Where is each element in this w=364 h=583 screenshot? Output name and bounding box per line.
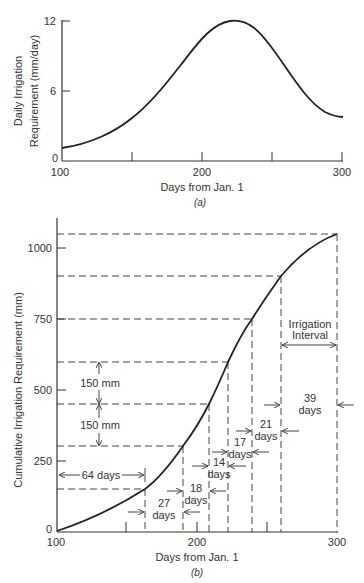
y-tick: 6 [50, 85, 56, 97]
y-tick: 750 [34, 313, 52, 325]
panel-caption: (b) [191, 567, 203, 578]
y-tick: 1000 [28, 242, 52, 254]
x-tick: 300 [333, 166, 351, 178]
panel-a: 12 6 0 100 200 300 Days from Jan. 1 (a) … [12, 15, 351, 208]
interval-label: 27 [158, 497, 170, 509]
depth-label: 150 mm [80, 419, 120, 431]
interval-label: days [298, 404, 322, 416]
y-tick: 0 [52, 152, 58, 164]
interval-label: days [228, 448, 252, 460]
x-axis-label: Days from Jan. 1 [160, 181, 243, 193]
y-tick: 500 [34, 384, 52, 396]
x-tick: 300 [328, 536, 346, 548]
figure: 12 6 0 100 200 300 Days from Jan. 1 (a) … [0, 0, 364, 583]
x-tick: 100 [47, 536, 65, 548]
interval-label: 64 days [82, 469, 121, 481]
y-axis-label: Daily Irrigation [12, 56, 24, 126]
interval-label: 18 [190, 482, 202, 494]
depth-label: 150 mm [80, 377, 120, 389]
daily-curve [62, 21, 343, 148]
x-tick: 200 [188, 536, 206, 548]
interval-label: 21 [260, 418, 272, 430]
x-axis-label: Days from Jan. 1 [155, 551, 238, 563]
y-axis-label: Cumulative Irrigation Requirement (mm) [12, 292, 24, 488]
x-tick: 100 [51, 166, 69, 178]
y-axis-label: Requirement (mm/day) [28, 35, 40, 147]
interval-label: days [184, 494, 208, 506]
interval-label: days [207, 468, 231, 480]
irrigation-interval-label: Interval [292, 329, 328, 341]
y-tick: 250 [34, 455, 52, 467]
interval-label: days [254, 430, 278, 442]
day-lines [145, 234, 337, 532]
panel-b: 1000 750 500 250 0 100 200 300 Days from… [12, 218, 354, 578]
interval-label: 17 [234, 436, 246, 448]
interval-label: days [152, 509, 176, 521]
interval-label: 14 [213, 456, 225, 468]
y-tick: 12 [44, 15, 56, 27]
panel-caption: (a) [194, 197, 206, 208]
level-lines [57, 234, 337, 489]
y-tick: 0 [46, 523, 52, 535]
x-tick: 200 [193, 166, 211, 178]
interval-label: 39 [304, 392, 316, 404]
